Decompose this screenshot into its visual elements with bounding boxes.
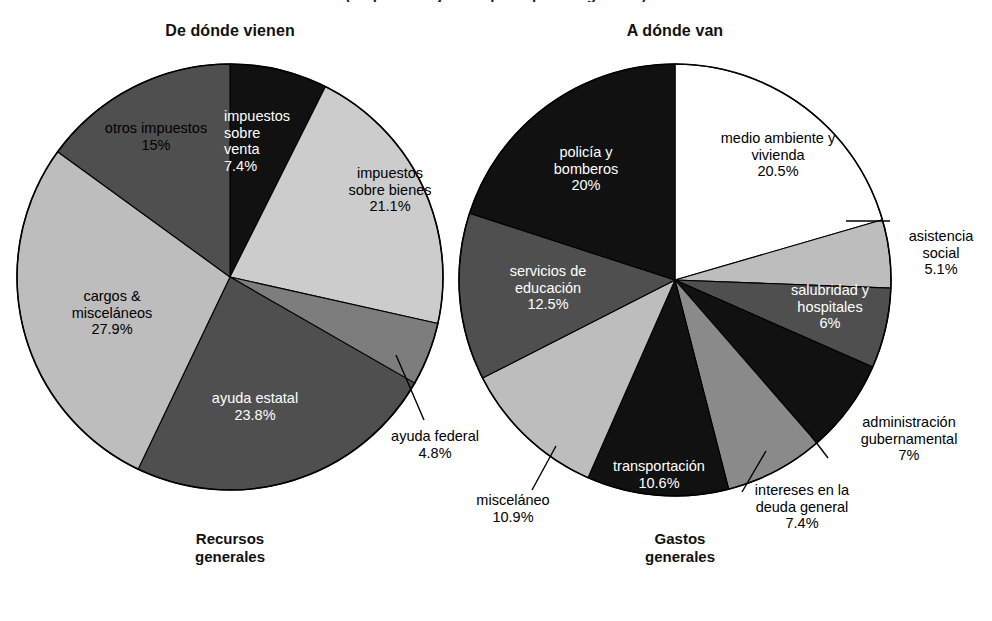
figure-canvas: (en porcentajes del presupuesto general)… xyxy=(0,0,992,621)
right-slice-label-salubridad-hospitales: salubridad y hospitales 6% xyxy=(760,282,900,332)
right-slice-label-administracion-gubernamental: administración gubernamental 7% xyxy=(826,414,992,464)
left-pie-chart xyxy=(0,0,500,560)
right-slice-label-transportacion: transportación 10.6% xyxy=(584,458,734,491)
right-slice-label-asistencia-social: asistencia social 5.1% xyxy=(892,228,990,278)
left-slice-label-cargos-miscelaneos: cargos & misceláneos 27.9% xyxy=(28,288,196,338)
right-slice-label-policia-bomberos: policía y bomberos 20% xyxy=(516,144,656,194)
right-slice-label-miscelaneo: misceláneo 10.9% xyxy=(448,492,578,525)
left-slice-label-otros-impuestos: otros impuestos 15% xyxy=(82,120,230,153)
right-slice-label-medio-ambiente-vivienda: medio ambiente y vivienda 20.5% xyxy=(688,130,868,180)
left-chart-caption: Recursos generales xyxy=(120,530,340,565)
left-slice-label-impuestos-sobre-venta: impuestos sobre venta 7.4% xyxy=(224,108,290,174)
left-slice-label-ayuda-estatal: ayuda estatal 23.8% xyxy=(170,390,340,423)
right-slice-label-servicios-educacion: servicios de educación 12.5% xyxy=(478,263,618,313)
right-chart-caption: Gastos generales xyxy=(570,530,790,565)
right-slice-label-intereses-deuda-general: intereses en la deuda general 7.4% xyxy=(722,482,882,532)
